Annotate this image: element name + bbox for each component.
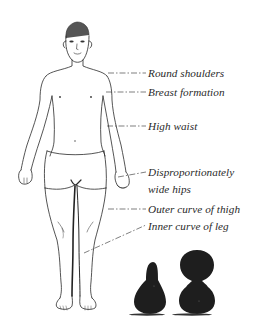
label-breast-formation: Breast formation — [148, 86, 225, 98]
diagram-stage: Round shoulders Breast formation High wa… — [0, 0, 254, 327]
label-inner-leg: Inner curve of leg — [148, 220, 229, 232]
head-icon — [63, 22, 92, 62]
label-outer-thigh: Outer curve of thigh — [148, 203, 240, 215]
label-high-waist: High waist — [148, 120, 197, 132]
figure-drawing — [0, 0, 254, 327]
hourglass-shape — [179, 250, 215, 314]
pear-shape — [134, 262, 166, 314]
label-hips-line2: wide hips — [148, 183, 191, 195]
label-round-shoulders: Round shoulders — [148, 67, 224, 79]
label-hips-line1: Disproportionately — [148, 166, 234, 178]
gourd-shapes — [129, 250, 215, 316]
